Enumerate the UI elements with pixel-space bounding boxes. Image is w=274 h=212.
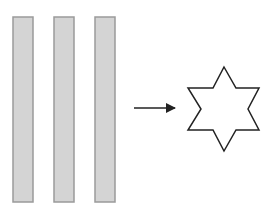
bar-1 [13, 17, 33, 202]
bar-3 [95, 17, 115, 202]
six-pointed-star-shape [188, 67, 259, 151]
bar-2 [54, 17, 74, 202]
diagram-canvas [0, 0, 274, 212]
bars-group [13, 17, 115, 202]
